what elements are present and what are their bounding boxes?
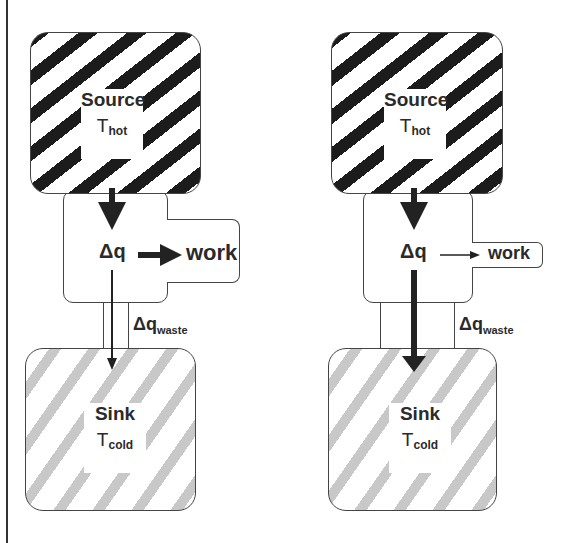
waste-heat-arrow-icon — [107, 270, 117, 370]
work-arrow-icon — [440, 251, 480, 259]
flow-arrows — [282, 0, 564, 543]
diagram-left: Source Thot Sink Tcold Δq work Δqwaste — [0, 0, 282, 543]
heat-in-arrow-icon — [98, 188, 126, 230]
diagram-right: Source Thot Sink Tcold Δq work Δqwaste — [282, 0, 564, 543]
heat-in-arrow-icon — [400, 188, 428, 230]
waste-heat-arrow-icon — [402, 270, 426, 372]
work-arrow-icon — [138, 244, 182, 266]
flow-arrows — [0, 0, 282, 543]
